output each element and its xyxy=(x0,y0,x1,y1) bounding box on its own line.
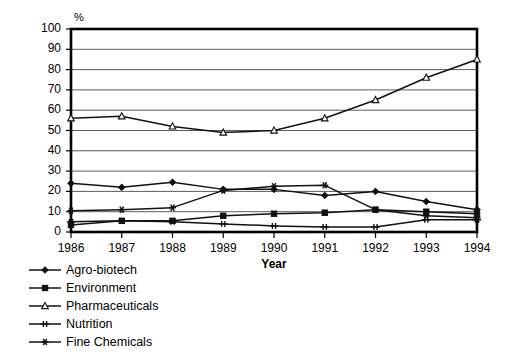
legend-marker-filled-diamond-icon xyxy=(28,262,62,278)
marker-environment xyxy=(322,210,327,215)
legend-label: Nutrition xyxy=(66,317,113,331)
legend-marker xyxy=(42,267,49,274)
y-tick-label: 100 xyxy=(31,21,61,35)
x-tick-label: 1986 xyxy=(48,241,94,255)
marker-agro-biotech xyxy=(423,198,430,205)
legend-item-environment[interactable]: Environment xyxy=(28,279,288,297)
legend-item-fine-chemicals[interactable]: Fine Chemicals xyxy=(28,333,288,351)
x-tick-label: 1988 xyxy=(150,241,196,255)
y-tick-label: 20 xyxy=(31,183,61,197)
marker-agro-biotech xyxy=(169,179,176,186)
series-markers xyxy=(67,56,481,230)
y-axis-unit-label: % xyxy=(74,11,84,23)
y-tick-label: 70 xyxy=(31,82,61,96)
y-tick-label: 10 xyxy=(31,204,61,218)
x-tick-label: 1990 xyxy=(251,241,297,255)
legend-item-agro-biotech[interactable]: Agro-biotech xyxy=(28,261,288,279)
legend-label: Agro-biotech xyxy=(66,263,137,277)
y-tick-label: 90 xyxy=(31,41,61,55)
marker-agro-biotech xyxy=(372,188,379,195)
legend-label: Pharmaceuticals xyxy=(66,299,158,313)
marker-agro-biotech xyxy=(321,192,328,199)
legend-marker-asterisk-icon xyxy=(28,334,62,350)
y-tick-label: 0 xyxy=(31,224,61,238)
y-tick-label: 80 xyxy=(31,62,61,76)
marker-pharmaceuticals xyxy=(474,56,481,62)
series-line-pharmaceuticals xyxy=(71,59,477,132)
legend-marker xyxy=(42,285,47,290)
legend-marker-open-triangle-icon xyxy=(28,298,62,314)
x-tick-label: 1987 xyxy=(99,241,145,255)
line-chart-figure: % 0102030405060708090100 198619871988198… xyxy=(0,0,525,359)
chart-legend: Agro-biotechEnvironmentPharmaceuticalsNu… xyxy=(28,261,288,351)
marker-agro-biotech xyxy=(118,184,125,191)
legend-item-nutrition[interactable]: Nutrition xyxy=(28,315,288,333)
legend-marker-filled-square-icon xyxy=(28,280,62,296)
legend-label: Environment xyxy=(66,281,136,295)
x-tick-label: 1992 xyxy=(353,241,399,255)
marker-agro-biotech xyxy=(68,180,75,187)
y-tick-label: 60 xyxy=(31,102,61,116)
x-tick-label: 1991 xyxy=(302,241,348,255)
y-tick-label: 50 xyxy=(31,123,61,137)
y-tick-label: 40 xyxy=(31,143,61,157)
x-tick-label: 1994 xyxy=(454,241,500,255)
legend-label: Fine Chemicals xyxy=(66,335,152,349)
legend-marker-dash-cross-icon xyxy=(28,316,62,332)
x-tick-label: 1993 xyxy=(403,241,449,255)
grid-lines xyxy=(71,49,477,232)
marker-environment xyxy=(271,211,276,216)
y-tick-label: 30 xyxy=(31,163,61,177)
series-lines xyxy=(71,59,477,226)
marker-environment xyxy=(221,213,226,218)
x-tick-label: 1989 xyxy=(200,241,246,255)
legend-item-pharmaceuticals[interactable]: Pharmaceuticals xyxy=(28,297,288,315)
